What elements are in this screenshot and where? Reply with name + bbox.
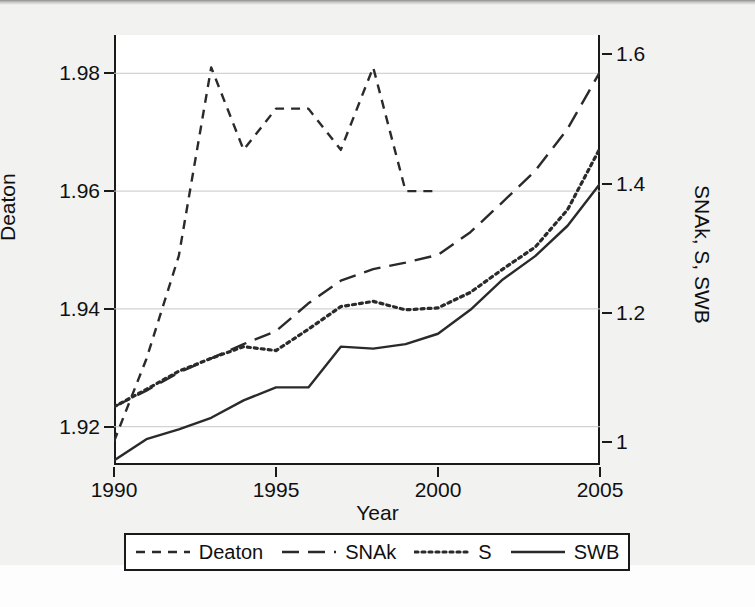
y-tick-right-1.6: 1.6 <box>616 43 706 64</box>
y-tick-right-1: 1 <box>616 431 706 452</box>
y-tick-left-1.98-mark <box>104 72 114 74</box>
y-tick-left-1.94: 1.94 <box>0 298 100 319</box>
legend-entry-snak[interactable]: SNAk <box>281 541 396 564</box>
y-tick-left-1.94-mark <box>104 308 114 310</box>
chart-legend: DeatonSNAkSSWB <box>124 533 630 571</box>
y-tick-right-1.2: 1.2 <box>616 302 706 323</box>
x-axis-title: Year <box>0 501 755 525</box>
y-tick-right-1.6-mark <box>602 53 612 55</box>
x-tick-1995: 1995 <box>226 479 326 500</box>
y-tick-left-1.92: 1.92 <box>0 416 100 437</box>
legend-swatch-s-icon <box>414 545 470 559</box>
x-tick-2000: 2000 <box>388 479 488 500</box>
x-tick-2005: 2005 <box>550 479 650 500</box>
legend-entry-s[interactable]: S <box>414 541 491 564</box>
y-tick-left-1.98: 1.98 <box>0 62 100 83</box>
x-tick-1990-mark <box>113 467 115 477</box>
series-line-deaton <box>114 67 438 441</box>
legend-entry-deaton[interactable]: Deaton <box>135 541 264 564</box>
plot-canvas <box>114 35 600 465</box>
x-tick-1995-mark <box>275 467 277 477</box>
legend-entry-swb[interactable]: SWB <box>510 541 620 564</box>
y-tick-right-1.4: 1.4 <box>616 173 706 194</box>
legend-swatch-deaton-icon <box>135 545 191 559</box>
y-tick-right-1.2-mark <box>602 312 612 314</box>
chart-figure: Deaton SNAk, S, SWB Year 1.921.941.961.9… <box>0 5 755 567</box>
y-tick-left-1.92-mark <box>104 426 114 428</box>
legend-swatch-snak-icon <box>281 545 337 559</box>
y-tick-right-1.4-mark <box>602 183 612 185</box>
y-tick-left-1.96: 1.96 <box>0 180 100 201</box>
y-tick-right-1-mark <box>602 441 612 443</box>
x-tick-1990: 1990 <box>64 479 164 500</box>
legend-label-deaton: Deaton <box>199 541 264 564</box>
legend-label-snak: SNAk <box>345 541 396 564</box>
legend-label-s: S <box>478 541 491 564</box>
plot-area <box>114 35 600 465</box>
x-tick-2000-mark <box>437 467 439 477</box>
series-line-snak <box>114 72 600 407</box>
legend-swatch-swb-icon <box>510 545 566 559</box>
x-tick-2005-mark <box>599 467 601 477</box>
legend-label-swb: SWB <box>574 541 620 564</box>
y-tick-left-1.96-mark <box>104 190 114 192</box>
series-line-s <box>114 148 600 407</box>
scan-edge-bottom <box>0 565 755 607</box>
series-line-swb <box>114 184 600 461</box>
